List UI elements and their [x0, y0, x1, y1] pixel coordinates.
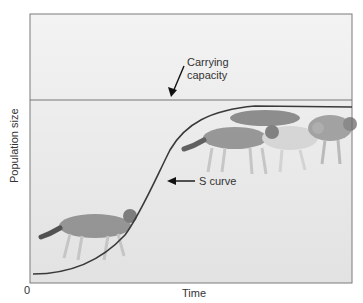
- s-curve-label: S curve: [199, 175, 236, 187]
- y-axis-label: Population size: [8, 108, 20, 183]
- carrying-capacity-label-line1: Carrying: [187, 56, 229, 68]
- logistic-growth-chart: Carrying capacity S curve 0 Time Populat…: [0, 0, 363, 303]
- x-axis-label: Time: [182, 287, 206, 299]
- origin-label: 0: [24, 284, 30, 296]
- carrying-capacity-label-line2: capacity: [187, 69, 228, 81]
